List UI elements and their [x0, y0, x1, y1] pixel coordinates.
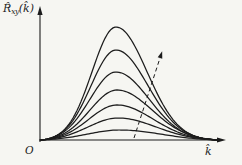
origin-label: O	[25, 145, 34, 156]
curve-4	[41, 90, 219, 140]
y-axis-label-subscript: xy	[11, 7, 18, 16]
correlation-estimate-figure: R̂xy(k̂) k̂ O	[0, 0, 242, 165]
x-axis-label: k̂	[205, 146, 212, 157]
curve-2	[41, 50, 219, 140]
y-axis-label: R̂xy(k̂)	[3, 3, 34, 16]
y-axis-label-argument: (k̂)	[19, 2, 34, 15]
axes	[37, 6, 226, 143]
plot-canvas	[0, 0, 242, 165]
curve-1-tallest	[41, 27, 219, 140]
curve-family	[41, 27, 219, 140]
